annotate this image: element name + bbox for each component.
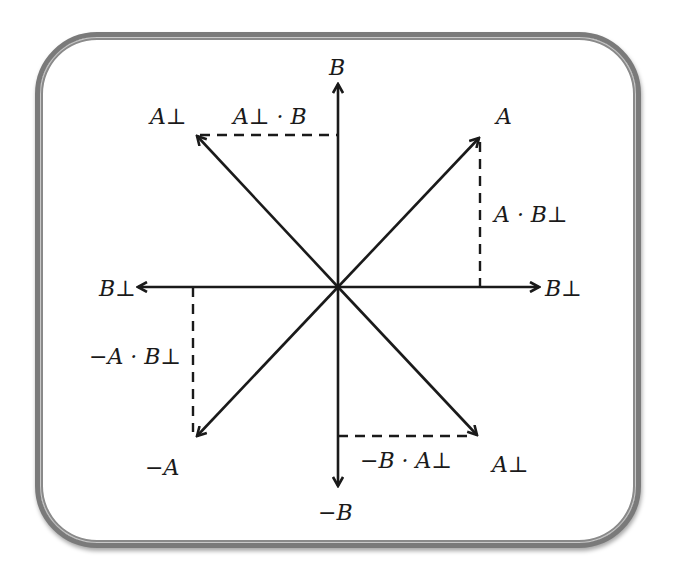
label-a-dot-b-perp: A · B⊥: [492, 202, 568, 227]
label-a-perp-upper: A⊥: [148, 104, 187, 129]
label-neg-a: −A: [145, 455, 179, 480]
label-neg-b-dot-a-perp: −B · A⊥: [360, 448, 452, 473]
label-a-perp-lower: A⊥: [490, 452, 529, 477]
vector-a: [338, 138, 479, 287]
label-b: B: [328, 55, 345, 80]
label-b-perp-right: B⊥: [544, 276, 582, 301]
vector-a-perp-upper: [197, 136, 338, 287]
vector-neg-a: [197, 287, 338, 436]
vector-a-perp-lower: [338, 287, 477, 435]
label-neg-b: −B: [318, 500, 353, 525]
label-neg-a-dot-b-perp: −A · B⊥: [89, 344, 181, 369]
vector-diagram: B −B B⊥ B⊥ A −A A⊥ A⊥ A⊥ · B A · B⊥ −A ·…: [0, 0, 673, 565]
label-a: A: [494, 104, 512, 129]
label-b-perp-left: B⊥: [98, 276, 136, 301]
label-a-perp-dot-b: A⊥ · B: [231, 104, 307, 129]
